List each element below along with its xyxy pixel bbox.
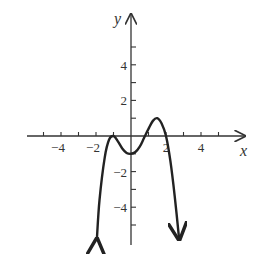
x-tick-label: 4 (198, 140, 205, 155)
y-tick-label: 4 (121, 58, 128, 73)
y-tick-label: −2 (113, 165, 127, 180)
x-axis-label: x (239, 142, 247, 159)
x-tick-label: −4 (51, 140, 65, 155)
y-axis-label: y (112, 10, 122, 28)
y-tick-label: −4 (113, 200, 127, 215)
x-tick-label: −2 (86, 140, 100, 155)
polynomial-graph: −4−224 42−2−4 x y (0, 0, 257, 254)
y-tick-label: 2 (121, 93, 128, 108)
